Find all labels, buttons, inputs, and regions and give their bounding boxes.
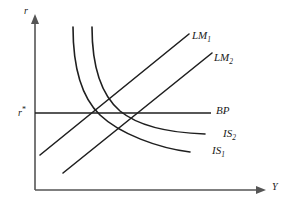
y-axis <box>31 14 39 190</box>
x-axis-arrowhead <box>256 186 266 194</box>
lm2-label-subscript: 2 <box>229 57 233 66</box>
is2-label-subscript: 2 <box>232 133 236 142</box>
r-star-superscript: * <box>22 105 26 114</box>
is2-label: IS2 <box>223 128 236 142</box>
lm1-label: LM1 <box>192 30 211 44</box>
lm2-label-base: LM <box>214 51 229 63</box>
lm1-label-base: LM <box>192 29 207 41</box>
is2-label-base: IS <box>223 127 232 139</box>
lm1-curve <box>40 34 189 155</box>
lm2-label: LM2 <box>214 52 233 66</box>
is2-curve <box>92 27 205 134</box>
plot-canvas <box>0 0 301 212</box>
equilibrium-rate-tick-label: r* <box>18 106 26 118</box>
y-axis-label: r <box>24 6 28 16</box>
x-axis <box>35 186 266 194</box>
is1-label-base: IS <box>212 144 221 156</box>
is1-curve <box>73 27 190 152</box>
y-axis-arrowhead <box>31 14 39 24</box>
bp-label: BP <box>216 105 229 116</box>
is1-label-subscript: 1 <box>221 150 225 159</box>
x-axis-label: Y <box>272 182 278 192</box>
is1-label: IS1 <box>212 145 225 159</box>
lm1-label-subscript: 1 <box>207 35 211 44</box>
is-lm-bp-diagram: r Y r* LM1 LM2 BP IS2 IS1 <box>0 0 301 212</box>
